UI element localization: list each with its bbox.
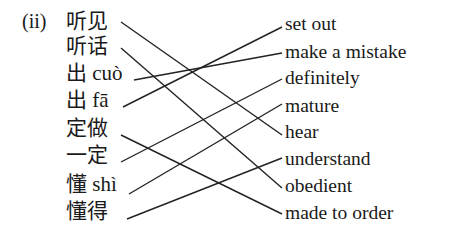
line-chucuo-make-a-mistake [134,53,282,80]
line-dingzuo-made-to-order [121,135,282,214]
matching-lines [0,0,464,245]
line-dongshi-mature [129,104,282,194]
line-chufa-set-out [123,27,282,107]
line-yiding-definitely [121,79,282,162]
line-dongde-understand [127,158,282,219]
